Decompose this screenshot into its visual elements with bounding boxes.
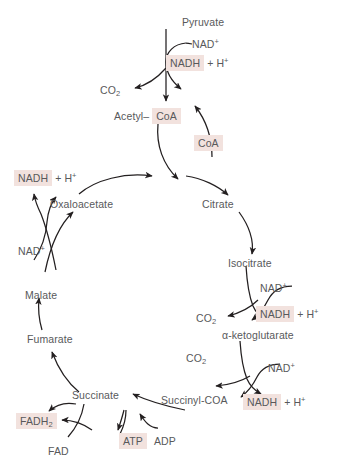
acetyl-prefix: Acetyl–	[114, 108, 149, 124]
node-malate: Malate	[25, 287, 57, 303]
node-succinate: Succinate	[72, 387, 119, 403]
cofactor-nad-malate: NAD+	[18, 243, 45, 259]
highlight-nadh: NADH	[243, 394, 281, 410]
node-succinyl-coa: Succinyl-COA	[161, 392, 228, 408]
cofactor-nadh-isocitrate: NADH + H+	[256, 306, 319, 322]
product-co2-pyruvate: CO2	[100, 82, 120, 98]
cofactor-nad-alpha-ketoglutarate: NAD+	[268, 360, 295, 376]
highlight-nadh: NADH	[256, 306, 294, 322]
highlight-nadh: NADH	[14, 170, 52, 186]
highlight-coa: CoA	[152, 108, 181, 124]
node-acetyl-coa: Acetyl– CoA	[114, 108, 181, 124]
cofactor-nad-isocitrate: NAD+	[260, 280, 287, 296]
product-co2-alpha-ketoglutarate: CO2	[186, 350, 206, 366]
cofactor-nadh-malate: NADH + H+	[14, 170, 77, 186]
highlight-atp: ATP	[119, 433, 147, 449]
product-fadh2: FADH2	[16, 413, 57, 429]
cofactor-nad-pyruvate: NAD+	[192, 36, 219, 52]
node-fumarate: Fumarate	[27, 331, 73, 347]
cofactor-nadh-pyruvate: NADH + H+	[166, 55, 229, 71]
product-coa-released: CoA	[194, 135, 223, 151]
node-isocitrate: Isocitrate	[228, 255, 272, 271]
highlight-nadh: NADH	[166, 55, 204, 71]
node-alpha-ketoglutarate: α-ketoglutarate	[222, 327, 294, 343]
cofactor-adp: ADP	[154, 433, 176, 449]
krebs-cycle-diagram: Pyruvate NAD+ NADH + H+ CO2 Acetyl– CoA …	[0, 0, 360, 468]
product-atp: ATP	[119, 433, 147, 449]
cofactor-fad: FAD	[48, 443, 69, 459]
node-citrate: Citrate	[202, 196, 234, 212]
node-oxaloacetate: Oxaloacetate	[50, 196, 113, 212]
node-pyruvate: Pyruvate	[182, 14, 224, 30]
cofactor-nadh-alpha-ketoglutarate: NADH + H+	[243, 394, 306, 410]
product-co2-isocitrate: CO2	[196, 310, 216, 326]
